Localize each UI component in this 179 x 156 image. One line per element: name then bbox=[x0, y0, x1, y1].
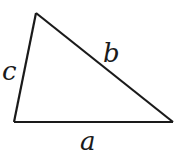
label-b: b bbox=[103, 38, 120, 68]
label-c: c bbox=[2, 56, 17, 86]
label-a: a bbox=[80, 126, 96, 156]
side-c bbox=[14, 13, 36, 122]
triangle-diagram: a b c bbox=[0, 0, 179, 156]
